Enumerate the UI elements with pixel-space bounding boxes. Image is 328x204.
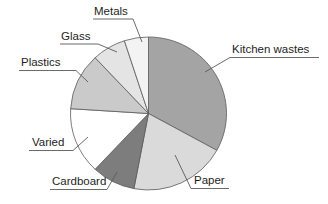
slice-label-glass: Glass <box>61 30 90 43</box>
slice-label-metals: Metals <box>94 5 128 18</box>
slice-label-varied: Varied <box>32 136 64 149</box>
slice-label-cardboard: Cardboard <box>52 175 106 188</box>
slice-label-plastics: Plastics <box>21 56 61 69</box>
pie-chart-canvas <box>0 0 328 204</box>
slice-label-paper: Paper <box>194 174 225 187</box>
slice-label-kitchen-wastes: Kitchen wastes <box>232 43 309 56</box>
pie-chart: Metals Glass Kitchen wastes Plastics Var… <box>0 0 328 204</box>
pie-slices <box>70 37 226 190</box>
leader-line-kitchen-wastes <box>205 58 319 73</box>
